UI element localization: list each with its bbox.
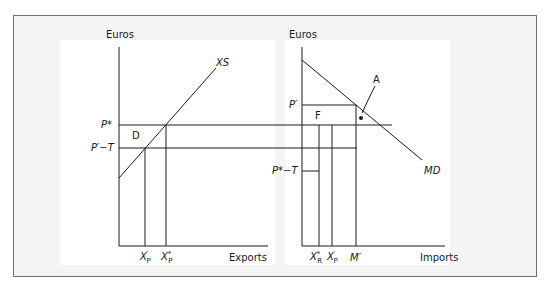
p-prime-minus-t-label: P′−T xyxy=(91,143,114,153)
area-d-label: D xyxy=(132,131,140,141)
x-star-p-base: X xyxy=(161,251,168,262)
x-star-r-label: X*R xyxy=(310,252,322,262)
x-prime-p-label: X′P xyxy=(140,252,151,262)
right-x-prime-p-label: X′P xyxy=(327,252,338,262)
p-prime-label: P′ xyxy=(289,100,297,110)
right-x-axis-label: Imports xyxy=(420,253,458,263)
x-prime-p-sub: P xyxy=(146,257,150,265)
x-star-r-base: X xyxy=(310,251,317,262)
left-x-axis-label: Exports xyxy=(229,253,267,263)
md-curve-label: MD xyxy=(424,166,440,176)
xs-curve xyxy=(119,68,216,178)
a-area-dot xyxy=(359,116,363,120)
p-star-minus-t-label: P*−T xyxy=(272,166,298,176)
right-x-prime-p-sub: P xyxy=(333,257,337,265)
x-star-p-sub: P xyxy=(168,257,172,265)
left-y-axis-label: Euros xyxy=(106,30,134,40)
xs-curve-label: XS xyxy=(216,58,229,68)
area-a-label: A xyxy=(373,75,380,85)
p-star-label: P* xyxy=(101,120,112,130)
a-pointer-line xyxy=(362,86,375,113)
x-star-r-sub: R xyxy=(317,257,322,265)
right-y-axis-label: Euros xyxy=(289,30,317,40)
trade-diagram xyxy=(0,0,552,287)
area-f-label: F xyxy=(315,111,321,121)
m-prime-label: M′ xyxy=(350,253,361,263)
x-star-p-label: X*P xyxy=(161,252,173,262)
